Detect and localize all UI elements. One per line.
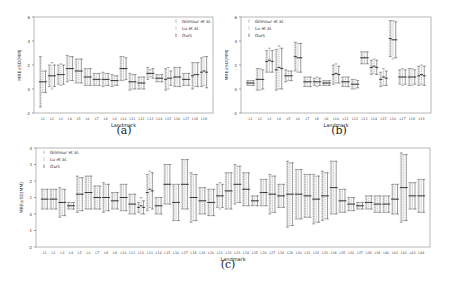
error-bar xyxy=(196,63,199,87)
legend-entry: Lu et al. xyxy=(182,26,199,31)
x-tick-label: L13 xyxy=(361,117,367,121)
y-tick-label: 4 xyxy=(29,146,32,151)
x-tick-label: L4 xyxy=(69,251,73,255)
x-tick-label: L1 xyxy=(249,117,253,121)
x-tick-label: L2 xyxy=(258,117,262,121)
errorbar-chart-a: -20246MRE±SD(MM)L1L2L3L4L5L6L7L8L9L10L11… xyxy=(0,0,225,140)
x-tick-label: L19 xyxy=(418,117,424,121)
error-bar xyxy=(344,77,347,87)
error-bar xyxy=(405,155,408,221)
legend-entry: Ours xyxy=(50,164,61,169)
error-bar xyxy=(113,193,116,210)
error-bar xyxy=(149,70,152,77)
error-bar xyxy=(262,179,265,205)
error-bar xyxy=(62,65,65,84)
x-tick-label: L43 xyxy=(409,251,415,255)
error-bar xyxy=(261,70,264,89)
error-bar xyxy=(274,176,277,212)
x-tick-label: L14 xyxy=(371,117,377,121)
x-tick-label: L37 xyxy=(357,251,363,255)
x-tick-label: L12 xyxy=(352,117,358,121)
error-bar xyxy=(143,77,146,89)
error-bar xyxy=(71,57,74,81)
error-bar xyxy=(325,81,328,86)
x-tick-label: L2 xyxy=(52,251,56,255)
error-bar xyxy=(359,202,362,209)
x-tick-label: L3 xyxy=(60,251,64,255)
y-tick-label: 2 xyxy=(27,63,30,68)
error-bar xyxy=(167,67,170,89)
error-bar xyxy=(420,65,423,84)
error-bar xyxy=(277,46,280,89)
error-bar xyxy=(140,198,143,215)
error-bar xyxy=(116,193,119,210)
y-tick-label: 2 xyxy=(234,63,237,68)
error-bar xyxy=(122,184,125,210)
x-tick-label: L10 xyxy=(333,117,339,121)
error-bar xyxy=(245,173,248,206)
x-tick-label: L18 xyxy=(192,117,198,121)
error-bar xyxy=(133,194,136,214)
error-bar xyxy=(116,76,119,86)
x-tick-label: L8 xyxy=(315,117,319,121)
x-tick-label: L27 xyxy=(269,251,275,255)
error-bar xyxy=(363,52,366,64)
x-tick-label: L32 xyxy=(313,251,319,255)
error-bar xyxy=(125,184,128,210)
y-tick-label: 4 xyxy=(27,39,30,44)
x-tick-label: L12 xyxy=(138,117,144,121)
error-bar xyxy=(297,169,300,219)
error-bar xyxy=(300,169,303,219)
x-tick-label: L17 xyxy=(182,251,188,255)
chart-panel-a: -20246MRE±SD(MM)L1L2L3L4L5L6L7L8L9L10L11… xyxy=(0,0,225,140)
x-tick-label: L12 xyxy=(138,251,144,255)
x-tick-label: L15 xyxy=(164,251,170,255)
legend-entry: Lu et al. xyxy=(255,26,272,31)
caption-b: (b) xyxy=(319,124,359,137)
x-tick-label: L19 xyxy=(199,251,205,255)
error-bar xyxy=(72,202,75,209)
error-bar xyxy=(105,184,108,210)
error-bar xyxy=(402,155,405,221)
error-bar xyxy=(280,48,283,89)
error-bar xyxy=(52,189,55,209)
x-tick-label: L22 xyxy=(226,251,232,255)
error-bar xyxy=(178,67,181,86)
error-bar xyxy=(328,81,331,86)
error-bar xyxy=(387,196,390,213)
x-tick-label: L20 xyxy=(208,251,214,255)
error-bar xyxy=(86,69,89,86)
error-bar xyxy=(361,202,364,209)
x-tick-label: L23 xyxy=(234,251,240,255)
error-bar xyxy=(89,69,92,86)
error-bar xyxy=(247,173,250,206)
x-tick-label: L10 xyxy=(121,251,127,255)
x-tick-label: L9 xyxy=(325,117,329,121)
x-tick-label: L31 xyxy=(304,251,310,255)
chart-panel-b: -20246MRE±SD(MM)L1L2L3L4L5L6L7L8L9L10L11… xyxy=(225,0,450,140)
error-bar xyxy=(177,184,180,220)
x-tick-label: L13 xyxy=(147,117,153,121)
error-bar xyxy=(324,173,327,219)
x-tick-label: L7 xyxy=(306,117,310,121)
error-bar xyxy=(289,163,292,226)
error-bar xyxy=(151,69,154,79)
error-bar xyxy=(227,173,230,209)
error-bar xyxy=(356,81,359,88)
error-bar xyxy=(210,189,213,215)
error-bar xyxy=(107,184,110,210)
error-bar xyxy=(366,52,369,64)
error-bar xyxy=(221,184,224,207)
error-bar xyxy=(195,174,198,220)
error-bar xyxy=(306,174,309,217)
y-tick-label: 6 xyxy=(27,15,30,20)
error-bar xyxy=(160,198,163,215)
error-bar xyxy=(280,184,283,207)
error-bar xyxy=(194,63,197,87)
x-tick-label: L2 xyxy=(50,117,54,121)
error-bar xyxy=(201,188,204,214)
x-tick-label: L33 xyxy=(322,251,328,255)
x-tick-label: L36 xyxy=(348,251,354,255)
error-bar xyxy=(113,76,116,86)
error-bar xyxy=(55,189,58,209)
